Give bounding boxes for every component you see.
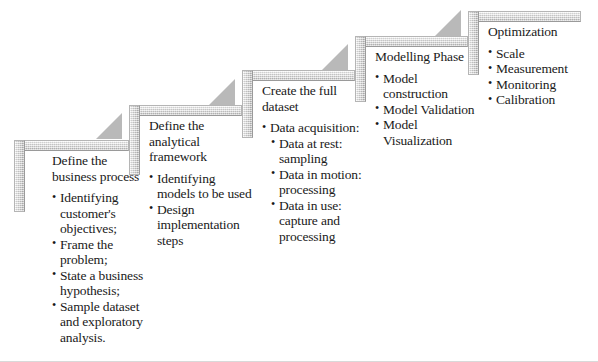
list-item: Frame the problem; [52,237,147,268]
stage-5-title: Optimization [488,24,596,40]
arrow-head-2-to-3 [209,79,235,105]
list-item: Identifying customer's objectives; [52,190,147,237]
stage-2-title: Define the analytical framework [149,118,255,165]
list-item: Model construction [375,71,481,102]
list-item: Identifying models to be used [149,171,255,202]
stage-3-top-bar [242,70,355,81]
stage-4-left-bar [355,36,366,102]
stage-4-title: Modelling Phase [375,49,481,65]
arrow-head-4-to-5 [435,10,461,36]
stage-4-bullet-list: Model construction Model Validation Mode… [375,71,481,149]
stage-2-left-bar [129,105,140,175]
stage-3-left-bar [242,70,253,138]
list-item: Sample dataset and exploratory analysis. [52,299,147,346]
stage-5-content: Optimization Scale Measurement Monitorin… [488,24,596,108]
stage-2-top-bar [129,105,242,116]
list-item: Model Validation [375,102,481,118]
stage-5-left-bar [468,11,479,75]
list-item: Model Visualization [375,117,481,148]
list-item: Measurement [488,61,596,77]
stage-2-bullet-list: Identifying models to be used Design imp… [149,171,255,249]
list-item: Scale [488,46,596,62]
list-item: Data at rest: sampling [262,136,368,167]
list-item: Design implementation steps [149,202,255,249]
list-item: Data acquisition: [262,120,368,136]
stage-1-content: Define the business process Identifying … [52,153,147,345]
stage-4-top-bar [355,36,468,47]
stage-1-left-bar [14,140,25,212]
stage-3-content: Create the full dataset Data acquisition… [262,83,368,244]
list-item: Data in use: capture and processing [262,198,368,245]
list-item: Calibration [488,92,596,108]
stage-5-bullet-list: Scale Measurement Monitoring Calibration [488,46,596,108]
arrow-head-1-to-2 [96,113,122,139]
stage-1-top-bar [14,140,129,151]
stage-4-content: Modelling Phase Model construction Model… [375,49,481,148]
arrow-head-3-to-4 [322,44,348,70]
stage-3-title: Create the full dataset [262,83,368,114]
stage-2-content: Define the analytical framework Identify… [149,118,255,248]
stage-5-top-bar [468,11,581,22]
list-item: Monitoring [488,77,596,93]
process-diagram: Define the business process Identifying … [0,0,598,362]
list-item: State a business hypothesis; [52,268,147,299]
list-item: Data in motion: processing [262,167,368,198]
stage-3-bullet-list: Data acquisition: Data at rest: sampling… [262,120,368,244]
stage-1-bullet-list: Identifying customer's objectives; Frame… [52,190,147,345]
